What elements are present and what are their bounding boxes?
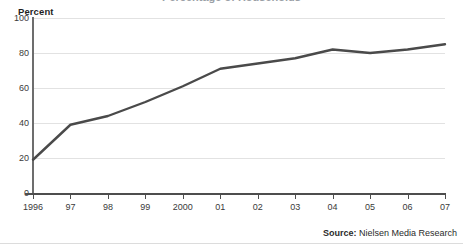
series-line-layer [0,0,463,244]
source-note: Source: Nielsen Media Research [323,228,457,238]
series-line [33,44,445,160]
chart-figure: Percentage of Households Percent 0204060… [0,0,463,244]
source-value: Nielsen Media Research [356,228,457,238]
source-label: Source: [323,228,357,238]
